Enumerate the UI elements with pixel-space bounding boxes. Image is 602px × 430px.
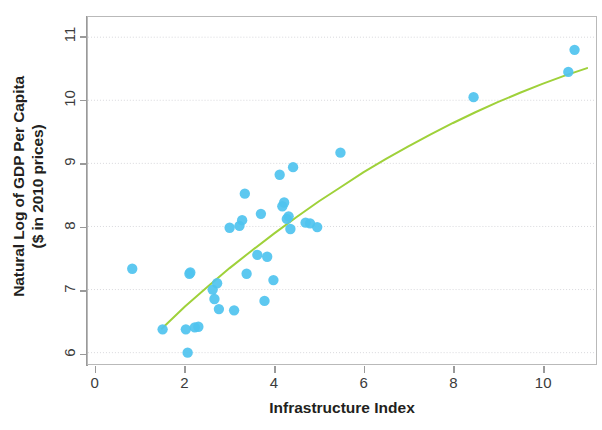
scatter-point <box>240 188 250 198</box>
scatter-point <box>335 147 345 157</box>
y-axis-title-line1: Natural Log of GDP Per Capita <box>10 76 27 297</box>
scatter-point <box>237 215 247 225</box>
x-axis-tick-label: 4 <box>259 374 289 391</box>
scatter-point <box>285 224 295 234</box>
x-axis-tick-label: 10 <box>528 374 558 391</box>
scatter-point <box>563 67 573 77</box>
scatter-point <box>185 267 195 277</box>
x-axis-tick-mark <box>364 366 366 373</box>
scatter-point <box>193 322 203 332</box>
scatter-point <box>468 92 478 102</box>
x-axis-tick-mark <box>274 366 276 373</box>
scatter-point <box>127 264 137 274</box>
y-axis-tick-mark <box>80 163 87 165</box>
scatter-point <box>283 211 293 221</box>
scatter-point <box>279 197 289 207</box>
y-axis-tick-mark <box>80 354 87 356</box>
plot-area <box>87 16 597 365</box>
y-axis-tick-mark <box>80 290 87 292</box>
x-axis-tick-label: 2 <box>169 374 199 391</box>
x-axis-tick-label: 6 <box>349 374 379 391</box>
scatter-point <box>229 305 239 315</box>
scatter-point <box>224 223 234 233</box>
scatter-point <box>268 275 278 285</box>
x-axis-tick-label: 8 <box>438 374 468 391</box>
y-axis-tick-mark <box>80 227 87 229</box>
scatter-point <box>569 45 579 55</box>
scatter-chart-figure: Natural Log of GDP Per Capita ($ in 2010… <box>0 0 602 430</box>
scatter-point <box>181 324 191 334</box>
scatter-point <box>252 250 262 260</box>
y-axis-tick-labels: 67891011 <box>54 0 82 372</box>
y-axis-tick-mark <box>80 100 87 102</box>
scatter-point <box>274 170 284 180</box>
y-axis-title-line2: ($ in 2010 prices) <box>28 76 47 297</box>
scatter-point <box>256 209 266 219</box>
scatter-point <box>312 222 322 232</box>
x-axis-tick-mark <box>543 366 545 373</box>
scatter-point <box>182 347 192 357</box>
scatter-point <box>259 296 269 306</box>
y-axis-tick-label: 10 <box>61 85 78 111</box>
y-axis-tick-label: 11 <box>61 22 78 48</box>
y-axis-tick-label: 8 <box>61 212 78 238</box>
scatter-point <box>214 304 224 314</box>
y-axis-tick-label: 6 <box>61 339 78 365</box>
scatter-point <box>212 278 222 288</box>
scatter-point <box>157 324 167 334</box>
x-axis-tick-mark <box>95 366 97 373</box>
scatter-point <box>288 162 298 172</box>
y-axis-tick-mark <box>80 36 87 38</box>
x-axis-tick-mark <box>453 366 455 373</box>
y-axis-tick-label: 9 <box>61 149 78 175</box>
scatter-points-group <box>127 45 580 358</box>
scatter-point <box>241 269 251 279</box>
x-axis-tick-labels: 0246810 <box>0 370 602 398</box>
scatter-point <box>262 252 272 262</box>
x-axis-title: Infrastructure Index <box>87 399 597 417</box>
plot-canvas <box>88 17 596 364</box>
x-axis-tick-label: 0 <box>80 374 110 391</box>
y-axis-tick-label: 7 <box>61 276 78 302</box>
x-axis-tick-mark <box>184 366 186 373</box>
y-axis-title: Natural Log of GDP Per Capita ($ in 2010… <box>0 0 56 372</box>
scatter-point <box>209 294 219 304</box>
gridlines <box>88 37 596 352</box>
